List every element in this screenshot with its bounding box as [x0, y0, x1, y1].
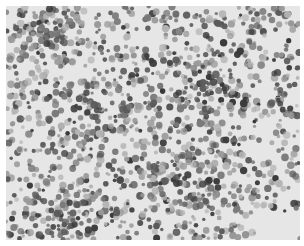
cell-field — [6, 6, 300, 240]
cell-micrograph — [6, 6, 300, 240]
micrograph-frame — [0, 0, 304, 246]
